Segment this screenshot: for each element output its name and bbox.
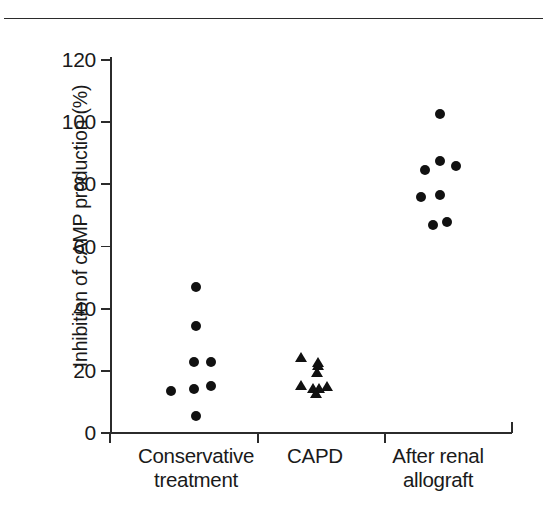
y-tick-100 [101,121,111,123]
data-point-circle [420,165,430,175]
data-point-circle [189,384,199,394]
y-tick-120 [101,59,111,61]
data-point-circle [206,381,216,391]
data-point-circle [166,386,176,396]
y-tick-60 [101,246,111,248]
x-tick-0 [109,432,111,443]
data-point-triangle [295,380,307,390]
x-group-label-1: CAPD [260,444,370,468]
y-tick-40 [101,308,111,310]
data-point-triangle [295,352,307,362]
y-tick-20 [101,370,111,372]
x-axis-line [110,432,512,434]
x-tick-1 [257,432,259,443]
data-point-circle [442,217,452,227]
data-point-circle [416,192,426,202]
x-group-label-0: Conservative treatment [111,444,281,492]
data-point-triangle [311,367,323,377]
x-tick-3 [511,422,513,433]
data-point-circle [435,156,445,166]
data-point-triangle [310,388,322,398]
data-point-circle [428,220,438,230]
data-point-circle [435,190,445,200]
data-point-circle [191,411,201,421]
y-axis-title: Inhibition of cAMP production (%) [69,16,91,436]
data-point-circle [451,161,461,171]
data-point-circle [191,282,201,292]
y-tick-80 [101,183,111,185]
data-point-circle [191,321,201,331]
data-point-circle [189,357,199,367]
figure-scatter-plot: 120100806040200 Inhibition of cAMP produ… [0,0,547,522]
x-tick-2 [384,432,386,443]
data-point-circle [435,109,445,119]
data-point-circle [206,357,216,367]
x-group-label-2: After renal allograft [363,444,513,492]
plot-area: 120100806040200 Inhibition of cAMP produ… [0,0,547,522]
